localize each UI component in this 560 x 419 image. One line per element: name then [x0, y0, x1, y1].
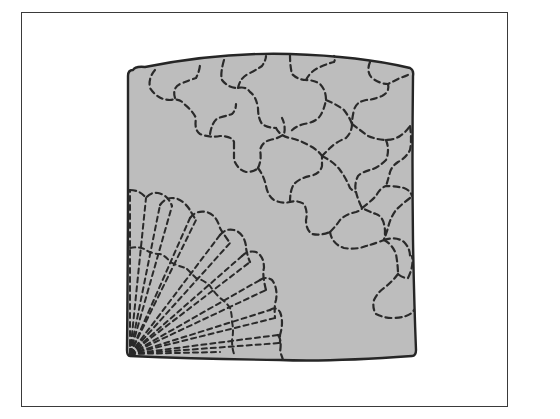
quilt-block-illustration — [0, 0, 560, 419]
